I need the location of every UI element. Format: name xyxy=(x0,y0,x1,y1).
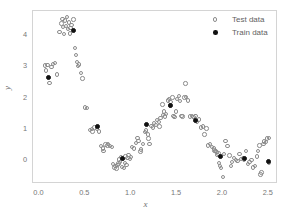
test-data-point xyxy=(164,112,168,116)
test-data-point xyxy=(253,164,257,168)
test-data-point xyxy=(244,149,248,153)
legend: Test data Train data xyxy=(205,13,283,39)
test-data-point xyxy=(146,136,150,140)
test-data-point xyxy=(80,76,84,80)
test-data-point xyxy=(157,124,161,128)
test-data-point xyxy=(267,136,271,140)
test-data-point xyxy=(204,126,208,130)
x-tick-label: 2.5 xyxy=(255,188,281,197)
test-data-point xyxy=(221,175,225,179)
test-data-point xyxy=(264,140,268,144)
y-tick-label: 0 xyxy=(11,155,27,164)
y-tick-label: 3 xyxy=(11,61,27,70)
y-tick-label: 2 xyxy=(11,93,27,102)
x-tick-label: 0.0 xyxy=(25,188,51,197)
scatter-plot-figure: 0.00.51.01.52.02.5 01234 x y Test data T… xyxy=(0,0,291,218)
test-data-point xyxy=(129,155,133,159)
test-data-point xyxy=(223,139,227,143)
test-data-point xyxy=(73,46,77,50)
test-data-point xyxy=(255,154,259,158)
test-data-point xyxy=(249,158,253,162)
test-data-point xyxy=(79,71,83,75)
y-axis-label: y xyxy=(2,86,12,90)
train-data-point xyxy=(120,156,125,161)
test-data-point xyxy=(114,166,118,170)
test-data-point xyxy=(124,163,128,167)
test-data-point xyxy=(183,81,187,85)
test-data-point xyxy=(55,72,59,76)
test-data-point xyxy=(85,106,89,110)
test-data-point xyxy=(202,132,206,136)
x-tick-label: 1.0 xyxy=(117,188,143,197)
test-data-point xyxy=(65,15,69,19)
test-data-point xyxy=(132,146,136,150)
train-data-point xyxy=(71,28,76,33)
test-data-point xyxy=(77,62,81,66)
test-data-point xyxy=(141,142,145,146)
test-data-point xyxy=(47,81,51,85)
test-data-point xyxy=(44,68,48,72)
test-data-point xyxy=(256,149,260,153)
train-data-point xyxy=(95,124,100,129)
test-data-point xyxy=(136,139,140,143)
legend-item-train-data: Train data xyxy=(205,26,283,39)
test-data-point xyxy=(170,95,174,99)
x-tick-label: 2.0 xyxy=(209,188,235,197)
test-data-point xyxy=(259,170,263,174)
filled-circle-icon xyxy=(213,30,218,35)
test-data-point xyxy=(69,23,73,27)
test-data-point xyxy=(90,129,94,133)
legend-item-test-data: Test data xyxy=(205,13,283,26)
test-data-point xyxy=(225,144,229,148)
test-data-point xyxy=(62,32,66,36)
test-data-point xyxy=(139,147,143,151)
test-data-point xyxy=(219,166,223,170)
test-data-point xyxy=(53,61,57,65)
open-circle-icon xyxy=(213,17,217,21)
test-data-point xyxy=(178,99,182,103)
test-data-point xyxy=(180,114,184,118)
train-data-point xyxy=(218,154,223,159)
x-tick-label: 1.5 xyxy=(163,188,189,197)
y-tick-label: 4 xyxy=(11,30,27,39)
test-data-point xyxy=(174,109,178,113)
legend-label-test-data: Test data xyxy=(232,13,264,26)
legend-label-train-data: Train data xyxy=(232,26,268,39)
test-data-point xyxy=(172,115,176,119)
test-data-point xyxy=(160,102,164,106)
train-data-point xyxy=(46,75,51,80)
test-data-point xyxy=(101,149,105,153)
y-tick-label: 1 xyxy=(11,124,27,133)
test-data-point xyxy=(71,17,75,21)
x-tick-label: 0.5 xyxy=(71,188,97,197)
test-data-point xyxy=(177,94,181,98)
test-data-point xyxy=(186,98,190,102)
test-data-point xyxy=(147,142,151,146)
test-data-point xyxy=(229,164,233,168)
test-data-point xyxy=(74,53,78,57)
train-data-point xyxy=(168,103,173,108)
test-data-point xyxy=(110,145,114,149)
test-data-point xyxy=(227,153,231,157)
test-data-point xyxy=(97,129,101,133)
x-axis-label: x xyxy=(0,199,291,209)
